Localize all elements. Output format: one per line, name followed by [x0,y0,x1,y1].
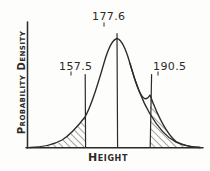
y-axis-label: Probability Density [16,28,27,138]
mean-value-label: 177.6 [92,10,126,23]
distribution-plot-svg [0,0,210,171]
right-tail-shaded-region [150,95,200,148]
upper-bound-value-label: 190.5 [153,60,187,73]
bell-curve [30,39,200,148]
mean-vertical-line [117,34,118,148]
lower-bound-value-label: 157.5 [59,60,93,73]
x-axis-label: Height [88,151,128,164]
